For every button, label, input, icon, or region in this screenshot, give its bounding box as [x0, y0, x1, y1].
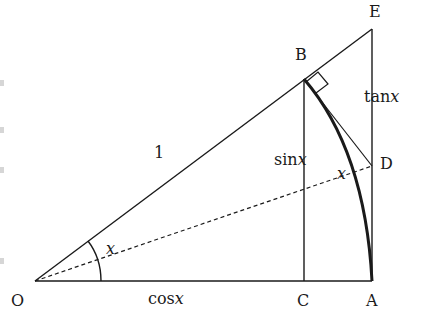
radius-label: 1 — [154, 145, 164, 161]
trig-diagram — [0, 0, 427, 332]
tan-var: x — [390, 87, 399, 106]
point-label-e: E — [369, 4, 381, 20]
point-label-a: A — [366, 293, 378, 309]
point-label-o: O — [11, 293, 24, 309]
cos-func: cos — [148, 289, 175, 308]
tan-label: tanx — [364, 89, 399, 105]
sin-label: sinx — [274, 152, 307, 168]
segment-od-dashed — [35, 166, 372, 281]
sin-func: sin — [274, 150, 298, 169]
left-edge-artifact — [0, 80, 4, 86]
point-label-d: D — [380, 156, 393, 172]
left-edge-artifact — [0, 127, 4, 133]
cos-var: x — [175, 289, 184, 308]
cos-label: cosx — [148, 291, 184, 307]
segment-oe — [35, 29, 372, 281]
point-label-c: C — [297, 293, 309, 309]
angle-arc-o — [88, 241, 101, 281]
left-edge-artifact — [0, 258, 4, 264]
sin-var: x — [298, 150, 307, 169]
point-label-b: B — [295, 47, 307, 63]
left-edge-artifact — [0, 167, 4, 173]
tan-func: tan — [364, 87, 390, 106]
angle-label-d: x — [337, 166, 346, 182]
angle-label-o: x — [106, 241, 115, 257]
